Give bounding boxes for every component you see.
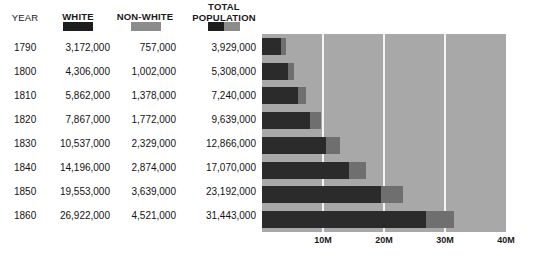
column-header-nonwhite: NON-WHITE	[112, 11, 178, 22]
cell-year: 1810	[14, 90, 48, 101]
cell-year: 1850	[14, 186, 48, 197]
x-axis-tick-10M: 10M	[314, 235, 332, 245]
cell-white: 26,922,000	[48, 210, 110, 221]
bar-1800	[262, 63, 294, 80]
bar-segment-white-1840	[262, 162, 349, 179]
bar-segment-nonwhite-1820	[310, 112, 321, 129]
table-row: 185019,553,0003,639,00023,192,000	[0, 178, 262, 202]
table-row: 183010,537,0002,329,00012,866,000	[0, 130, 262, 154]
cell-year: 1790	[14, 42, 48, 53]
bar-segment-nonwhite-1800	[288, 63, 294, 80]
x-axis-tick-30M: 30M	[436, 235, 454, 245]
bar-1850	[262, 186, 403, 203]
cell-nonwhite: 1,378,000	[114, 90, 176, 101]
total-label-line-2: POPULATION	[192, 12, 256, 23]
cell-nonwhite: 2,874,000	[114, 162, 176, 173]
x-axis-tick-20M: 20M	[375, 235, 393, 245]
cell-nonwhite: 2,329,000	[114, 138, 176, 149]
bar-segment-white-1790	[262, 38, 281, 55]
table-row: 18207,867,0001,772,0009,639,000	[0, 106, 262, 130]
cell-nonwhite: 757,000	[114, 42, 176, 53]
cell-white: 5,862,000	[48, 90, 110, 101]
cell-total: 23,192,000	[186, 186, 256, 197]
bar-1840	[262, 162, 366, 179]
legend-swatch-total-nonwhite-part	[224, 22, 240, 31]
population-table: 17903,172,000757,0003,929,00018004,306,0…	[0, 34, 262, 226]
bar-segment-white-1850	[262, 186, 381, 203]
table-row: 184014,196,0002,874,00017,070,000	[0, 154, 262, 178]
table-row: 18004,306,0001,002,0005,308,000	[0, 58, 262, 82]
cell-nonwhite: 1,002,000	[114, 66, 176, 77]
bar-1820	[262, 112, 321, 129]
cell-total: 3,929,000	[186, 42, 256, 53]
bar-1790	[262, 38, 286, 55]
chart-x-axis: 10M20M30M40M	[262, 232, 506, 252]
cell-total: 7,240,000	[186, 90, 256, 101]
cell-white: 14,196,000	[48, 162, 110, 173]
table-header: YEAR WHITE NON-WHITE TOTAL POPULATION	[0, 0, 270, 34]
bar-1860	[262, 211, 454, 228]
bar-segment-nonwhite-1810	[298, 87, 306, 104]
bar-1830	[262, 137, 340, 154]
legend-swatch-nonwhite	[131, 22, 161, 31]
legend-swatch-white	[63, 22, 93, 31]
bar-segment-white-1860	[262, 211, 426, 228]
table-row: 17903,172,000757,0003,929,000	[0, 34, 262, 58]
bar-segment-nonwhite-1860	[426, 211, 454, 228]
cell-year: 1840	[14, 162, 48, 173]
bar-segment-nonwhite-1790	[281, 38, 286, 55]
bar-segment-white-1820	[262, 112, 310, 129]
cell-total: 31,443,000	[186, 210, 256, 221]
table-row: 186026,922,0004,521,00031,443,000	[0, 202, 262, 226]
cell-total: 5,308,000	[186, 66, 256, 77]
bar-segment-white-1800	[262, 63, 288, 80]
cell-total: 12,866,000	[186, 138, 256, 149]
cell-total: 9,639,000	[186, 114, 256, 125]
bar-segment-white-1810	[262, 87, 298, 104]
total-label-line-1: TOTAL	[208, 1, 240, 12]
cell-nonwhite: 1,772,000	[114, 114, 176, 125]
cell-year: 1820	[14, 114, 48, 125]
column-header-total-population: TOTAL POPULATION	[186, 2, 262, 23]
cell-white: 19,553,000	[48, 186, 110, 197]
column-header-year: YEAR	[8, 12, 42, 23]
cell-nonwhite: 3,639,000	[114, 186, 176, 197]
gridline-30M	[444, 34, 446, 232]
bar-segment-nonwhite-1850	[381, 186, 403, 203]
cell-white: 10,537,000	[48, 138, 110, 149]
cell-white: 3,172,000	[48, 42, 110, 53]
cell-white: 4,306,000	[48, 66, 110, 77]
population-bar-chart	[262, 34, 506, 232]
table-row: 18105,862,0001,378,0007,240,000	[0, 82, 262, 106]
cell-year: 1800	[14, 66, 48, 77]
cell-year: 1830	[14, 138, 48, 149]
bar-segment-nonwhite-1840	[349, 162, 367, 179]
x-axis-tick-40M: 40M	[497, 235, 515, 245]
legend-swatch-total-white-part	[208, 22, 224, 31]
cell-nonwhite: 4,521,000	[114, 210, 176, 221]
bar-1810	[262, 87, 306, 104]
legend-swatch-total-population	[208, 22, 240, 31]
cell-year: 1860	[14, 210, 48, 221]
bar-segment-white-1830	[262, 137, 326, 154]
cell-total: 17,070,000	[186, 162, 256, 173]
bar-segment-nonwhite-1830	[326, 137, 340, 154]
column-header-white: WHITE	[52, 11, 104, 22]
cell-white: 7,867,000	[48, 114, 110, 125]
